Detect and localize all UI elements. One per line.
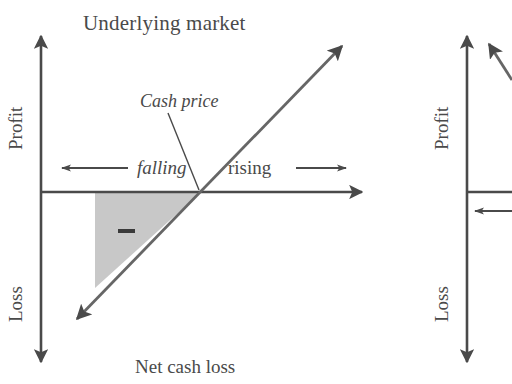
right-payoff-line <box>489 44 512 80</box>
rising-label: rising <box>228 158 271 177</box>
right-profit-axis-label: Profit <box>432 107 451 150</box>
cash-price-annotation: Cash price <box>140 92 219 110</box>
diagram-canvas: Underlying market Cash price falling ris… <box>0 0 512 384</box>
left-payoff-line <box>77 46 342 319</box>
minus-sign-glyph <box>118 229 135 233</box>
left-panel-caption: Net cash loss <box>135 357 235 376</box>
left-loss-axis-label: Loss <box>6 286 25 322</box>
left-panel-title: Underlying market <box>83 13 246 34</box>
right-loss-axis-label: Loss <box>432 286 451 322</box>
left-profit-axis-label: Profit <box>6 107 25 150</box>
diagram-vector-layer <box>0 0 512 384</box>
falling-label: falling <box>137 158 187 177</box>
cash-price-leader-line <box>168 113 199 190</box>
